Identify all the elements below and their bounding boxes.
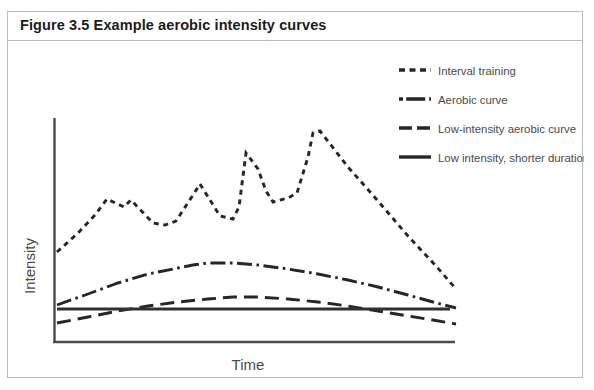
figure-frame: Figure 3.5 Example aerobic intensity cur… (7, 11, 583, 378)
legend-label-aerobic-curve: Aerobic curve (438, 94, 508, 106)
legend-label-low-intensity-shorter-duration: Low intensity, shorter duration (438, 152, 584, 164)
legend-label-interval-training: Interval training (438, 65, 516, 77)
figure-title-bar: Figure 3.5 Example aerobic intensity cur… (8, 12, 582, 41)
legend-item-interval-training[interactable]: Interval training (399, 65, 516, 77)
legend-item-low-intensity-shorter-duration[interactable]: Low intensity, shorter duration (399, 152, 584, 164)
chart-legend: Interval training Aerobic curve Low-inte… (399, 65, 584, 164)
series-line-aerobic-curve (57, 263, 456, 308)
legend-item-aerobic-curve[interactable]: Aerobic curve (399, 94, 508, 106)
chart-plot-area: Intensity Time Interval training (8, 41, 582, 378)
y-axis-title: Intensity (21, 238, 38, 294)
aerobic-intensity-line-chart: Intensity Time Interval training (8, 41, 584, 378)
legend-item-low-intensity-aerobic-curve[interactable]: Low-intensity aerobic curve (399, 123, 576, 135)
x-axis-title: Time (232, 356, 265, 373)
series-line-low-intensity-aerobic-curve (57, 297, 456, 324)
legend-label-low-intensity-aerobic-curve: Low-intensity aerobic curve (438, 123, 576, 135)
figure-title: Figure 3.5 Example aerobic intensity cur… (20, 17, 327, 33)
